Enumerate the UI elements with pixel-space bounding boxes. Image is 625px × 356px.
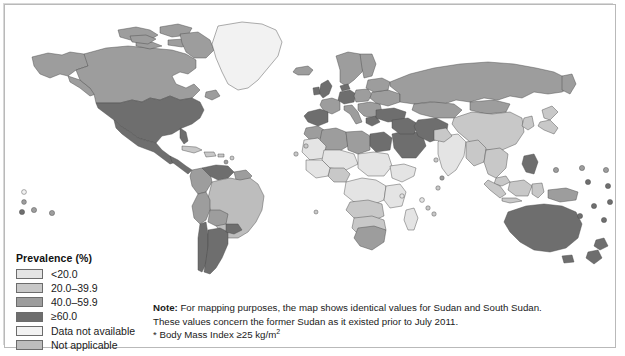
region-mongolia (470, 100, 510, 114)
region-sulawesi (532, 183, 544, 198)
legend-swatch-lt20 (16, 269, 43, 279)
region-ethiopia-somalia (390, 164, 416, 182)
note-bold-label: Note: (153, 302, 178, 313)
region-new-zealand-north (594, 238, 608, 250)
region-hispaniola (204, 152, 216, 157)
region-denmark (340, 84, 350, 91)
legend-swatch-gte60 (16, 312, 43, 322)
note-line-1: Note: For mapping purposes, the map show… (153, 301, 608, 315)
region-central-america (170, 156, 192, 174)
region-canada-newfoundland (205, 90, 220, 100)
legend-item-not-applicable: Not applicable (15, 338, 165, 352)
legend-item-40-59: 40.0–59.9 (15, 295, 165, 309)
region-belarus-baltic (366, 78, 390, 92)
legend-label-gte60: ≥60.0 (51, 311, 77, 322)
region-tasmania (562, 255, 574, 263)
region-puerto-rico (218, 154, 224, 157)
island-dot (553, 167, 558, 172)
region-south-africa (354, 226, 386, 250)
region-russian-federation (390, 62, 572, 104)
island-dot (605, 183, 610, 188)
legend-item-20-39: 20.0–39.9 (15, 281, 165, 295)
map-note: Note: For mapping purposes, the map show… (153, 301, 608, 342)
island-dot (426, 206, 430, 210)
legend-swatch-20-39 (16, 283, 43, 293)
island-dot (420, 198, 425, 203)
legend-title: Prevalence (%) (16, 252, 165, 264)
legend-swatch-no-data (16, 326, 43, 336)
note-footnote-text: * Body Mass Index ≥25 kg/m (153, 329, 276, 340)
legend-item-gte60: ≥60.0 (15, 310, 165, 324)
legend-item-lt20: <20.0 (15, 267, 165, 281)
legend: Prevalence (%) <20.0 20.0–39.9 40.0–59.9… (15, 252, 165, 352)
figure-frame: Prevalence (%) <20.0 20.0–39.9 40.0–59.9… (4, 4, 616, 348)
legend-swatch-40-59 (16, 297, 43, 307)
region-japan-honshu (538, 120, 558, 134)
region-united-kingdom (319, 80, 332, 98)
region-peru (192, 192, 210, 224)
region-canada (76, 46, 200, 103)
region-madagascar (404, 208, 418, 230)
island-dot (314, 210, 318, 214)
legend-item-no-data: Data not available (15, 324, 165, 338)
island-dot (304, 144, 308, 148)
island-dot (294, 152, 298, 156)
region-united-states (96, 96, 204, 143)
region-ireland (313, 87, 320, 95)
region-australia (504, 204, 582, 252)
legend-label-20-39: 20.0–39.9 (51, 283, 98, 294)
note-line-2: These values concern the former Sudan as… (153, 315, 608, 329)
note-footnote: * Body Mass Index ≥25 kg/m2 (153, 328, 608, 342)
legend-label-lt20: <20.0 (51, 269, 78, 280)
note-footnote-superscript: 2 (276, 328, 280, 335)
region-iceland (293, 66, 313, 75)
island-dot (19, 209, 24, 214)
island-dot (577, 213, 582, 218)
island-dot (224, 160, 228, 164)
region-borneo (508, 180, 532, 196)
island-dot (22, 190, 27, 195)
region-chad-sudan (358, 152, 392, 176)
region-germany (338, 90, 356, 104)
legend-label-not-applicable: Not applicable (51, 340, 118, 351)
legend-label-no-data: Data not available (51, 326, 135, 337)
region-java (502, 198, 522, 203)
region-papua-new-guinea (548, 188, 578, 202)
island-dot (440, 176, 444, 180)
island-dot (230, 156, 234, 160)
island-dot (591, 203, 596, 208)
island-dot (607, 199, 612, 204)
region-cuba (182, 146, 202, 153)
region-kazakhstan (412, 102, 462, 118)
region-greenland (212, 22, 282, 90)
island-dot (49, 210, 54, 215)
region-finland (360, 54, 376, 78)
island-dot (31, 207, 36, 212)
figure-page: Prevalence (%) <20.0 20.0–39.9 40.0–59.9… (0, 0, 625, 356)
island-dot (601, 217, 606, 222)
island-dot (603, 167, 608, 172)
island-dot (585, 179, 590, 184)
note-line-1-text: For mapping purposes, the map shows iden… (178, 302, 542, 313)
region-japan (542, 106, 558, 120)
region-bolivia (208, 210, 228, 226)
region-kamchatka (562, 74, 576, 94)
region-us-florida (180, 128, 188, 144)
region-poland (354, 89, 372, 102)
island-dot (579, 165, 584, 170)
region-new-zealand-south (586, 250, 602, 264)
region-spain-portugal (304, 109, 328, 126)
region-libya (346, 131, 370, 154)
island-dot (434, 158, 438, 162)
region-egypt (370, 132, 392, 152)
island-dot (22, 200, 27, 205)
legend-label-40-59: 40.0–59.9 (51, 297, 98, 308)
region-koreas (522, 116, 534, 130)
island-dot (436, 186, 440, 190)
island-dot (432, 212, 436, 216)
region-nigeria (328, 168, 350, 182)
region-thailand-indochina (484, 148, 508, 178)
island-dot (400, 194, 404, 198)
region-philippines (522, 154, 538, 174)
legend-swatch-not-applicable (16, 340, 43, 350)
